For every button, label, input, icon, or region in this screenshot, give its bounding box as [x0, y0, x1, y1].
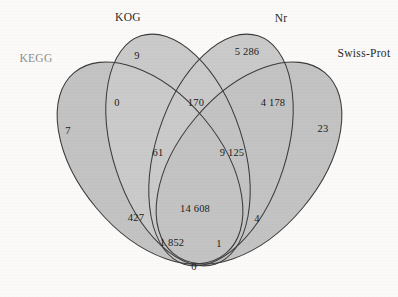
region-value-nr-swissprot: 4 178 — [261, 97, 286, 108]
region-value-kog-nr: 170 — [188, 97, 204, 108]
venn-fills — [21, 16, 379, 297]
region-value-kegg-nr-swissprot: 1 852 — [160, 237, 185, 248]
region-value-swissprot-only: 23 — [318, 123, 329, 134]
set-label-swissprot: Swiss-Prot — [338, 47, 391, 59]
region-value-kegg-only: 7 — [65, 125, 70, 136]
venn-ellipses — [0, 0, 398, 297]
set-label-kog: KOG — [115, 11, 141, 23]
region-value-all-four: 14 608 — [180, 203, 210, 214]
set-label-kegg: KEGG — [19, 52, 52, 64]
region-value-kegg-swissprot: 0 — [191, 261, 196, 272]
region-value-kog-nr-swissprot: 9 125 — [220, 147, 245, 158]
region-value-kegg-nr: 427 — [128, 212, 144, 223]
region-value-kegg-kog: 0 — [114, 97, 119, 108]
region-value-nr-only: 5 286 — [235, 46, 260, 57]
venn-diagram-figure: KEGGKOGNrSwiss-Prot 795 2862301704 17861… — [0, 0, 398, 297]
region-value-kog-swissprot: 4 — [254, 213, 259, 224]
set-label-nr: Nr — [275, 12, 288, 24]
region-value-kegg-kog-swissprot: 1 — [216, 238, 221, 249]
region-value-kog-only: 9 — [134, 50, 139, 61]
region-value-kegg-kog-nr: 61 — [153, 147, 164, 158]
